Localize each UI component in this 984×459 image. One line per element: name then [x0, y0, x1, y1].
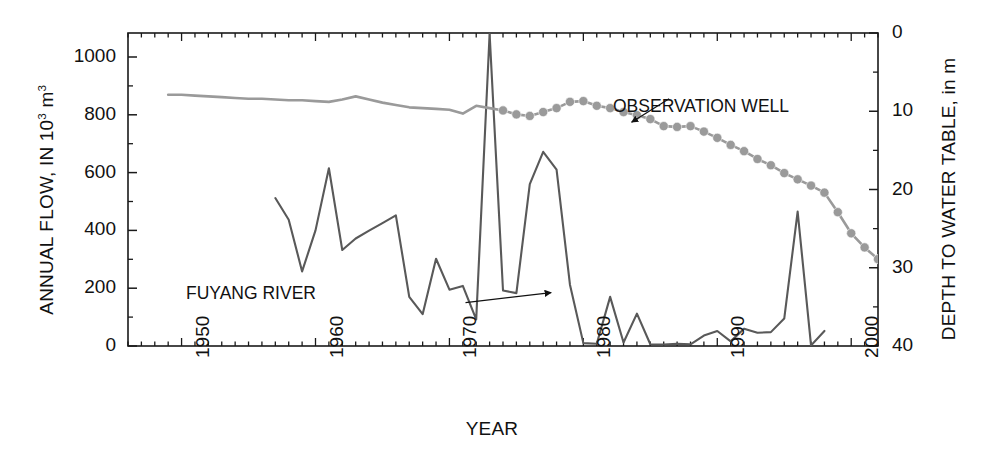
data-point-marker — [565, 97, 574, 106]
x-axis-tick-label: 1970 — [459, 316, 481, 358]
series-label-observation-well: OBSERVATION WELL — [613, 96, 789, 117]
chart-figure: ANNUAL FLOW, IN 103 m3 DEPTH TO WATER TA… — [0, 0, 984, 459]
x-axis-tick-label: 1990 — [727, 316, 749, 358]
series-observation-well — [168, 95, 918, 279]
data-point-marker — [525, 111, 534, 120]
data-point-marker — [592, 101, 601, 110]
data-point-marker — [753, 154, 762, 163]
data-point-marker — [699, 127, 708, 136]
y-axis-left-tick-label: 800 — [56, 103, 116, 125]
x-axis-tick-label: 1960 — [326, 316, 348, 358]
data-point-marker — [847, 229, 856, 238]
data-point-marker — [833, 208, 842, 217]
series-fuyang-river — [275, 34, 824, 346]
y-axis-left-tick-label: 200 — [56, 276, 116, 298]
x-axis-tick-label: 1980 — [593, 316, 615, 358]
data-point-marker — [766, 161, 775, 170]
data-point-marker — [498, 106, 507, 115]
data-point-marker — [873, 255, 882, 264]
data-point-marker — [512, 110, 521, 119]
data-point-marker — [713, 133, 722, 142]
x-axis-tick-label: 1950 — [192, 316, 214, 358]
y-axis-right-tick-label: 30 — [892, 256, 952, 278]
data-point-marker — [686, 122, 695, 131]
data-point-marker — [739, 147, 748, 156]
data-point-marker — [860, 243, 869, 252]
y-axis-left-tick-label: 1000 — [56, 45, 116, 67]
y-axis-left-tick-label: 0 — [56, 334, 116, 356]
data-point-marker — [659, 122, 668, 131]
data-point-marker — [820, 188, 829, 197]
data-point-marker — [673, 122, 682, 131]
y-axis-right-tick-label: 40 — [892, 334, 952, 356]
data-point-marker — [726, 140, 735, 149]
data-point-marker — [579, 96, 588, 105]
data-point-marker — [780, 168, 789, 177]
y-axis-right-tick-label: 20 — [892, 178, 952, 200]
y-axis-left-tick-label: 600 — [56, 161, 116, 183]
data-point-marker — [793, 175, 802, 184]
annotation-arrows — [466, 99, 670, 303]
x-axis-tick-label: 2000 — [861, 316, 883, 358]
y-axis-left-tick-label: 400 — [56, 218, 116, 240]
y-axis-right-tick-label: 0 — [892, 21, 952, 43]
data-point-marker — [552, 104, 561, 113]
data-point-marker — [806, 181, 815, 190]
data-point-marker — [539, 107, 548, 116]
series-label-fuyang-river: FUYANG RIVER — [186, 283, 316, 304]
plot-canvas — [0, 0, 984, 459]
y-axis-right-tick-label: 10 — [892, 99, 952, 121]
